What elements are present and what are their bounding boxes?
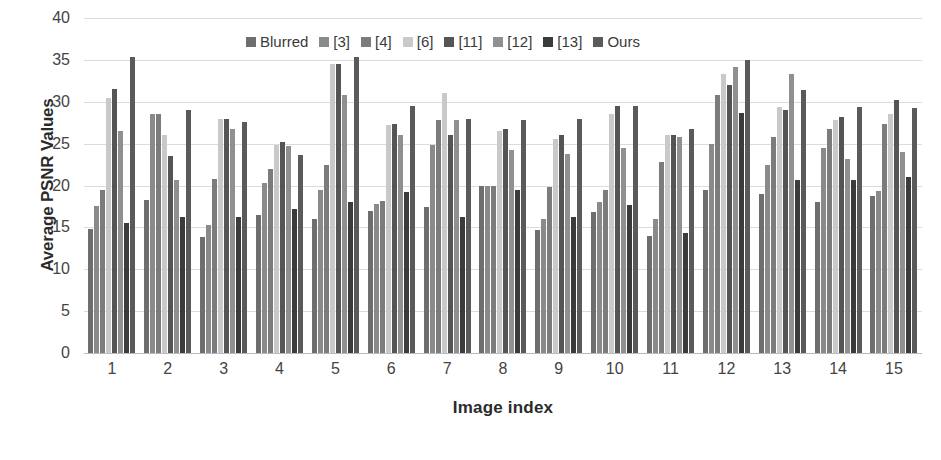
- x-axis-tick: 10: [587, 360, 643, 386]
- legend-item[interactable]: [4]: [361, 34, 392, 49]
- bar: [354, 57, 359, 353]
- bar: [839, 117, 844, 353]
- bar: [559, 135, 564, 353]
- bar: [689, 129, 694, 353]
- bar: [224, 119, 229, 354]
- bar: [633, 106, 638, 353]
- legend-item[interactable]: [12]: [493, 34, 532, 49]
- bar: [739, 113, 744, 353]
- bar-group: [754, 18, 810, 353]
- legend-label: [11]: [458, 34, 482, 49]
- bar: [827, 129, 832, 353]
- bar: [795, 180, 800, 353]
- bar: [721, 74, 726, 353]
- bar-group: [587, 18, 643, 353]
- bar: [609, 114, 614, 353]
- bar: [876, 191, 881, 353]
- legend-item[interactable]: [13]: [543, 34, 582, 49]
- bar: [821, 148, 826, 353]
- bar: [653, 219, 658, 353]
- bar: [168, 156, 173, 353]
- bar-group: [643, 18, 699, 353]
- bar: [212, 179, 217, 353]
- y-axis-tick: 20: [52, 177, 70, 195]
- y-axis-tick: 35: [52, 51, 70, 69]
- bar: [298, 155, 303, 353]
- legend-swatch-icon: [403, 37, 413, 47]
- legend-label: [13]: [557, 34, 582, 49]
- legend-label: [3]: [333, 34, 350, 49]
- x-axis-tick: 14: [810, 360, 866, 386]
- legend-item[interactable]: [3]: [319, 34, 350, 49]
- bar: [206, 225, 211, 353]
- y-axis-tick: 15: [52, 218, 70, 236]
- psnr-bar-chart: Average PSNR Values 4035302520151050 123…: [0, 0, 941, 460]
- bar: [312, 219, 317, 353]
- bar: [286, 146, 291, 353]
- bar: [454, 120, 459, 353]
- x-axis-tick: 3: [196, 360, 252, 386]
- bar: [615, 106, 620, 353]
- bar: [479, 186, 484, 354]
- bar-groups: [84, 18, 922, 353]
- legend-swatch-icon: [319, 37, 329, 47]
- x-axis-tick: 5: [307, 360, 363, 386]
- y-axis-tick: 30: [52, 93, 70, 111]
- plot-area: [84, 18, 922, 353]
- bar: [144, 200, 149, 353]
- legend-item[interactable]: Blurred: [246, 34, 308, 49]
- legend-item[interactable]: [11]: [444, 34, 482, 49]
- bar: [703, 190, 708, 353]
- legend-swatch-icon: [246, 37, 256, 47]
- bar: [815, 202, 820, 353]
- bar: [386, 125, 391, 353]
- bar: [683, 233, 688, 353]
- bar: [912, 108, 917, 353]
- bar: [392, 124, 397, 353]
- bar: [621, 148, 626, 353]
- legend-label: [4]: [375, 34, 392, 49]
- bar: [410, 106, 415, 353]
- legend-label: [12]: [507, 34, 532, 49]
- bar: [789, 74, 794, 353]
- x-axis-tick: 6: [363, 360, 419, 386]
- bar-group: [84, 18, 140, 353]
- bar: [497, 131, 502, 353]
- bar: [870, 196, 875, 353]
- bar: [218, 119, 223, 354]
- bar: [118, 131, 123, 353]
- legend-item[interactable]: [6]: [403, 34, 434, 49]
- bar: [777, 107, 782, 353]
- bar: [262, 183, 267, 353]
- bar: [509, 150, 514, 354]
- bar: [174, 180, 179, 353]
- bar: [547, 187, 552, 353]
- x-axis-tick-labels: 123456789101112131415: [84, 360, 922, 386]
- bar: [342, 95, 347, 353]
- bar-group: [307, 18, 363, 353]
- x-axis-tick: 12: [698, 360, 754, 386]
- bar: [242, 122, 247, 353]
- legend-item[interactable]: Ours: [593, 34, 640, 49]
- bar: [318, 190, 323, 353]
- bar: [677, 137, 682, 353]
- bar: [448, 135, 453, 353]
- bar: [647, 236, 652, 353]
- bar: [200, 237, 205, 353]
- bar: [565, 154, 570, 353]
- x-axis-tick: 1: [84, 360, 140, 386]
- bar: [591, 212, 596, 353]
- x-axis-title: Image index: [84, 398, 922, 418]
- bar: [906, 177, 911, 353]
- bar: [268, 169, 273, 353]
- bar: [745, 60, 750, 353]
- bar: [888, 114, 893, 353]
- bar: [882, 124, 887, 353]
- bar-group: [698, 18, 754, 353]
- legend-swatch-icon: [493, 37, 503, 47]
- bar: [535, 230, 540, 353]
- bar-group: [810, 18, 866, 353]
- bar: [801, 90, 806, 353]
- bar: [150, 114, 155, 353]
- bar: [424, 207, 429, 353]
